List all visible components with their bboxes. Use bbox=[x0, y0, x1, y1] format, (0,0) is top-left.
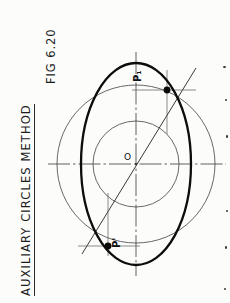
page-canvas: AUXILIARY CIRCLES METHOD FIG 6.20 bbox=[0, 0, 230, 303]
point-marker-upper bbox=[164, 87, 171, 94]
point-label-lower: P' bbox=[111, 238, 122, 248]
scan-speck bbox=[225, 99, 227, 101]
scan-speck bbox=[225, 246, 227, 249]
ellipse-construction-drawing bbox=[0, 0, 230, 303]
centre-point bbox=[135, 163, 137, 165]
scan-speck bbox=[224, 288, 226, 290]
center-label: O bbox=[124, 152, 131, 162]
scan-speck bbox=[223, 66, 226, 68]
point-label-upper: P₁ bbox=[132, 70, 143, 82]
scan-speck bbox=[226, 210, 228, 212]
scan-speck bbox=[226, 135, 228, 138]
